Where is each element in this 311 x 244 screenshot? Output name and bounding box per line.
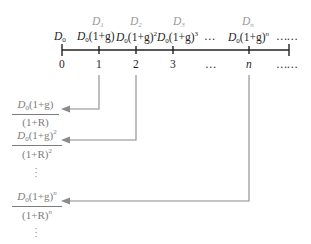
arrowhead-n-icon bbox=[61, 198, 70, 205]
period-label-n: n bbox=[246, 59, 252, 71]
connector-period-1 bbox=[70, 75, 99, 109]
period-label-ellipsis-end: …… bbox=[276, 59, 297, 71]
arrowhead-1-icon bbox=[61, 106, 70, 113]
cash-flow-2: D0(1+g)2 bbox=[116, 31, 157, 45]
vertical-ellipsis-1: ··· bbox=[31, 166, 41, 178]
cash-flow-0: D0 bbox=[54, 31, 66, 44]
period-label-ellipsis: … bbox=[205, 59, 217, 71]
pv-period-1: D0(1+g) (1+R) bbox=[12, 99, 59, 128]
cash-flow-ellipsis: … bbox=[204, 31, 216, 43]
period-label-0: 0 bbox=[59, 59, 65, 71]
cash-flow-3: D0(1+g)3 bbox=[157, 31, 198, 45]
label-d1: D1 bbox=[92, 16, 104, 29]
cash-flow-1: D0(1+g) bbox=[77, 31, 114, 44]
pv-period-n: D0(1+g)n (1+R)n bbox=[12, 190, 62, 221]
connector-period-2 bbox=[70, 75, 136, 140]
cash-flow-ellipsis-end: …… bbox=[276, 31, 297, 43]
period-label-1: 1 bbox=[96, 59, 102, 71]
pv-period-2: D0(1+g)2 (1+R)2 bbox=[12, 129, 62, 160]
arrowhead-2-icon bbox=[61, 137, 70, 144]
label-dn: Dn bbox=[242, 16, 254, 29]
connector-period-n bbox=[70, 75, 249, 201]
vertical-ellipsis-2: ··· bbox=[31, 226, 41, 238]
label-d2: D2 bbox=[130, 16, 142, 29]
cash-flow-n: D0(1+g)n bbox=[228, 31, 269, 45]
label-d3: D3 bbox=[173, 16, 185, 29]
period-label-3: 3 bbox=[170, 59, 176, 71]
period-label-2: 2 bbox=[133, 59, 139, 71]
